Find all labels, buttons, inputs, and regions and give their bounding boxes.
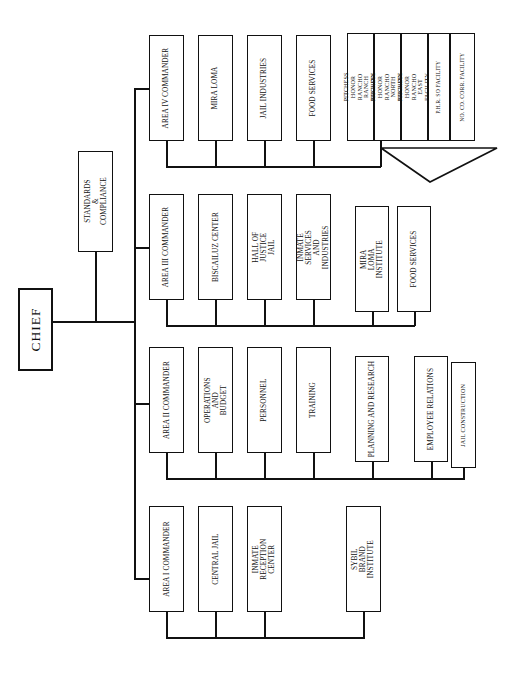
- spine-vertical: [134, 88, 136, 579]
- area2-commander-label: AREA II COMMANDER: [162, 361, 170, 439]
- area2-commander-box[interactable]: AREA II COMMANDER: [149, 347, 184, 453]
- area2-unit-1-label: PERSONNEL: [260, 378, 268, 421]
- area3-commander-label: AREA III COMMANDER: [162, 207, 170, 287]
- area2-stub-u5: [463, 468, 465, 479]
- standards-compliance-label: STANDARDS & COMPLIANCE: [83, 178, 107, 226]
- chief-box[interactable]: CHIEF: [18, 288, 53, 371]
- area1-unit-sybil-brand-institute[interactable]: SYBIL BRAND INSTITUTE: [346, 506, 381, 612]
- area4-unit-1-label: JAIL INDUSTRIES: [260, 58, 268, 119]
- area1-stub-cmd: [166, 612, 168, 638]
- chief-to-spine: [53, 321, 135, 323]
- area4-stub-u1: [264, 141, 266, 167]
- standards-compliance-box[interactable]: STANDARDS & COMPLIANCE: [78, 151, 113, 252]
- area2-unit-training[interactable]: TRAINING: [296, 347, 331, 453]
- area4-stub-cmd: [166, 141, 168, 167]
- pitchess-east-facility-box[interactable]: PITCHESS HONOR RANCHO EAST FACILITY: [401, 33, 428, 141]
- area2-stub-cmd: [166, 453, 168, 479]
- area3-stub-u4: [414, 312, 416, 326]
- area3-commander-box[interactable]: AREA III COMMANDER: [149, 194, 184, 300]
- area4-unit-jail-industries[interactable]: JAIL INDUSTRIES: [247, 35, 282, 141]
- pitchess-3-label: P.H.R. SO FACILITY: [436, 60, 442, 113]
- area2-unit-personnel[interactable]: PERSONNEL: [247, 347, 282, 453]
- area4-stub-u0: [215, 141, 217, 167]
- area2-unit-4-label: EMPLOYEE RELATIONS: [427, 368, 435, 450]
- area2-stub-u4: [431, 462, 433, 479]
- area3-stub-u2: [313, 300, 315, 326]
- area2-stub-u3: [372, 462, 374, 479]
- area2-unit-0-label: OPERATIONS AND BUDGET: [203, 377, 228, 423]
- area2-unit-planning-research[interactable]: PLANNING AND RESEARCH: [355, 356, 389, 462]
- area3-unit-3-label: MIRA LOMA INSTITUTE: [360, 240, 385, 278]
- area1-unit-2-label: SYBIL BRAND INSTITUTE: [351, 540, 376, 578]
- area4-stub-group: [380, 141, 382, 167]
- org-chart-canvas: CHIEF STANDARDS & COMPLIANCE AREA IV COM…: [0, 0, 508, 676]
- area1-unit-inmate-reception-center[interactable]: INMATE RECEPTION CENTER: [247, 506, 282, 612]
- area3-unit-biscailuz-center[interactable]: BISCAILUZ CENTER: [198, 194, 233, 300]
- area2-stub-u1: [264, 453, 266, 479]
- area2-unit-employee-relations[interactable]: EMPLOYEE RELATIONS: [414, 356, 448, 462]
- area2-stub-u2: [313, 453, 315, 479]
- pitchess-2-label: PITCHESS HONOR RANCHO EAST FACILITY: [397, 73, 431, 102]
- area2-unit-5-label: JAIL CONSTRUCTION: [460, 384, 467, 447]
- area1-stub-u2: [363, 612, 365, 638]
- area1-unit-1-label: INMATE RECEPTION CENTER: [252, 538, 277, 579]
- area4-stub-u2: [313, 141, 315, 167]
- phr-so-facility-box[interactable]: P.H.R. SO FACILITY: [428, 33, 450, 141]
- area4-commander-label: AREA IV COMMANDER: [162, 48, 170, 129]
- area2-stub-u0: [215, 453, 217, 479]
- area1-unit-0-label: CENTRAL JAIL: [211, 533, 219, 584]
- area3-unit-2-label: INMATE SERVICES AND INDUSTRIES: [297, 225, 330, 269]
- area3-unit-food-services[interactable]: FOOD SERVICES: [397, 206, 431, 312]
- area3-unit-mira-loma-institute[interactable]: MIRA LOMA INSTITUTE: [355, 206, 389, 312]
- area2-unit-operations-budget[interactable]: OPERATIONS AND BUDGET: [198, 347, 233, 453]
- area3-stub-cmd: [166, 300, 168, 326]
- area2-unit-jail-construction[interactable]: JAIL CONSTRUCTION: [451, 362, 476, 468]
- area1-unit-central-jail[interactable]: CENTRAL JAIL: [198, 506, 233, 612]
- area2-bus: [166, 478, 465, 480]
- area3-bus: [166, 325, 415, 327]
- area3-unit-hall-of-justice-jail[interactable]: HALL OF JUSTICE JAIL: [247, 194, 282, 300]
- area3-unit-4-label: FOOD SERVICES: [410, 231, 418, 288]
- area4-unit-2-label: FOOD SERVICES: [309, 60, 317, 117]
- area3-unit-inmate-services-industries[interactable]: INMATE SERVICES AND INDUSTRIES: [296, 194, 331, 300]
- area3-stub-u1: [264, 300, 266, 326]
- area1-stub-u0: [215, 612, 217, 638]
- area2-unit-2-label: TRAINING: [309, 382, 317, 418]
- area1-commander-label: AREA I COMMANDER: [162, 521, 170, 596]
- area3-stub-u3: [372, 312, 374, 326]
- area1-commander-box[interactable]: AREA I COMMANDER: [149, 506, 184, 612]
- area1-stub-u1: [264, 612, 266, 638]
- chief-label: CHIEF: [28, 307, 43, 351]
- area4-bus: [166, 166, 381, 168]
- area4-unit-0-label: MIRA LOMA: [211, 67, 219, 110]
- no-co-corr-facility-box[interactable]: NO. CO. CORR. FACILITY: [450, 33, 475, 141]
- area2-unit-3-label: PLANNING AND RESEARCH: [368, 361, 376, 458]
- area4-commander-box[interactable]: AREA IV COMMANDER: [149, 35, 184, 141]
- area4-unit-mira-loma[interactable]: MIRA LOMA: [198, 35, 233, 141]
- pitchess-4-label: NO. CO. CORR. FACILITY: [459, 52, 465, 121]
- area3-unit-0-label: BISCAILUZ CENTER: [211, 212, 219, 282]
- staff-stub: [95, 252, 97, 322]
- area3-unit-1-label: HALL OF JUSTICE JAIL: [252, 230, 277, 263]
- area3-stub-u0: [215, 300, 217, 326]
- area4-unit-food-services[interactable]: FOOD SERVICES: [296, 35, 331, 141]
